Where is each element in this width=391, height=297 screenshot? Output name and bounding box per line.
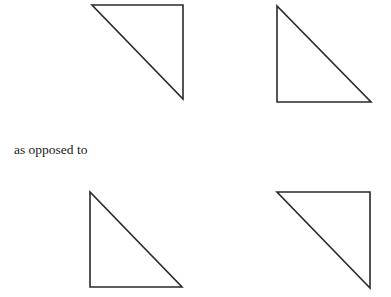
- triangle-top-right: [277, 6, 371, 102]
- triangle-bottom-right: [277, 192, 370, 288]
- caption-as-opposed-to: as opposed to: [14, 142, 88, 158]
- triangle-bottom-left: [90, 192, 182, 287]
- triangle-top-left: [92, 5, 183, 99]
